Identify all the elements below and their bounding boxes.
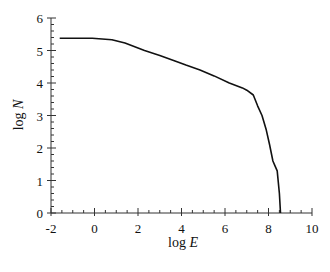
y-tick-label: 5: [37, 44, 44, 59]
y-tick-label: 1: [37, 174, 44, 189]
y-tick-label: 2: [37, 141, 44, 156]
x-tick-label: 0: [91, 221, 98, 236]
x-tick-label: 2: [135, 221, 142, 236]
x-axis-label: log E: [168, 235, 198, 250]
x-tick-label: 6: [222, 221, 229, 236]
y-tick-label: 0: [37, 206, 44, 221]
axes: -202468100123456: [37, 11, 319, 236]
y-axis-label: log N: [11, 99, 26, 130]
y-tick-label: 4: [37, 76, 44, 91]
data-curve: [60, 38, 281, 213]
y-tick-label: 6: [37, 11, 44, 26]
y-tick-label: 3: [37, 109, 44, 124]
x-tick-label: 8: [265, 221, 272, 236]
x-tick-label: 10: [306, 221, 319, 236]
chart: -202468100123456 log E log N: [0, 0, 330, 272]
x-tick-label: 4: [178, 221, 185, 236]
x-tick-label: -2: [46, 221, 57, 236]
